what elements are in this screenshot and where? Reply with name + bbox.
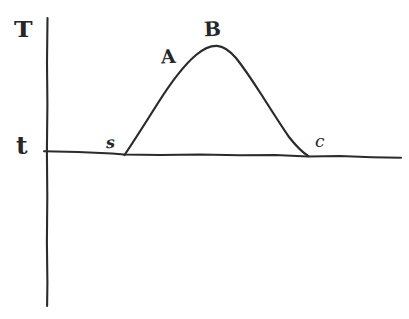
curve-label-a: A xyxy=(161,47,177,67)
y-axis-line xyxy=(47,18,48,306)
curve-label-s: s xyxy=(105,135,115,152)
temperature-time-sketch: T t A B s c xyxy=(0,0,409,319)
curve-label-b: B xyxy=(204,19,222,40)
y-axis-label: T xyxy=(14,18,32,41)
temperature-curve xyxy=(125,46,309,156)
x-axis-baseline xyxy=(44,151,401,158)
curve-label-c: c xyxy=(315,133,325,150)
chart-drawing-area xyxy=(0,0,409,319)
baseline-label: t xyxy=(16,134,28,158)
